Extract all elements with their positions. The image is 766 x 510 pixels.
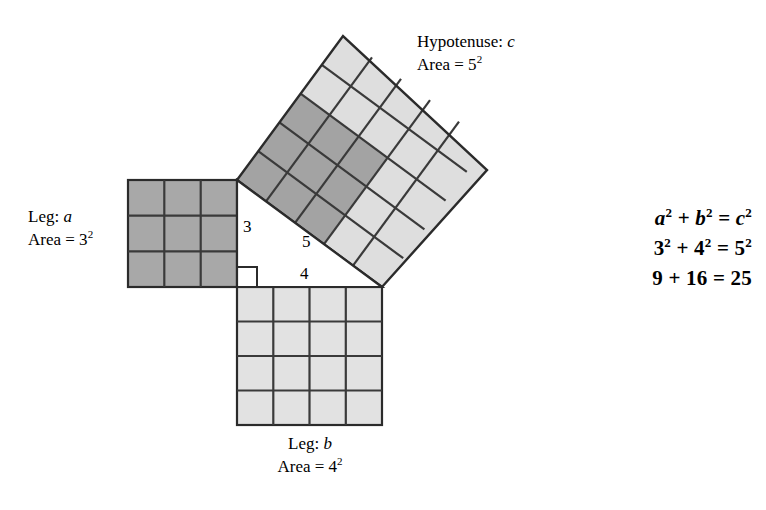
- equation-2-plus: +: [676, 236, 688, 260]
- leg-a-area-text: Area = 3: [28, 230, 88, 249]
- equation-row-2: 32 + 42 = 52: [566, 233, 752, 263]
- hypotenuse-label-line1: Hypotenuse: c: [417, 30, 515, 53]
- equation-3-term-b: 16: [686, 266, 707, 290]
- equation-3-term-a: 9: [652, 266, 663, 290]
- equation-1-term-b: b: [695, 206, 706, 230]
- leg-a-label: Leg: a Area = 32: [28, 205, 93, 251]
- equation-row-1: a2 + b2 = c2: [566, 203, 752, 233]
- leg-a-label-var: a: [63, 207, 72, 226]
- leg-a-area-line: Area = 32: [28, 228, 93, 251]
- hypotenuse-area-text: Area = 5: [417, 55, 477, 74]
- equation-2-term-c: 5: [735, 236, 746, 260]
- equation-3-plus: +: [668, 266, 680, 290]
- square-a-group: [128, 180, 237, 287]
- equation-2-term-a: 3: [654, 236, 665, 260]
- leg-a-area-exponent: 2: [88, 228, 94, 240]
- leg-b-label-text: Leg:: [288, 434, 319, 453]
- square-b-group: [237, 287, 382, 425]
- equation-3-term-c: 25: [731, 266, 752, 290]
- diagram-canvas: Hypotenuse: c Area = 52 Leg: a Area = 32…: [0, 0, 766, 510]
- side-length-c: 5: [302, 232, 311, 252]
- leg-b-label-line1: Leg: b: [230, 432, 390, 455]
- hypotenuse-area-exponent: 2: [477, 53, 483, 65]
- equation-1-plus: +: [678, 206, 690, 230]
- side-length-b: 4: [300, 264, 309, 284]
- equation-3-equals: =: [713, 266, 725, 290]
- side-length-a: 3: [243, 217, 252, 237]
- equation-block: a2 + b2 = c2 32 + 42 = 52 9 + 16 = 25: [566, 203, 752, 293]
- leg-a-label-text: Leg:: [28, 207, 59, 226]
- equation-2-exp-a: 2: [664, 235, 671, 250]
- equation-1-term-a: a: [655, 206, 666, 230]
- equation-2-term-b: 4: [694, 236, 705, 260]
- leg-b-area-line: Area = 42: [230, 455, 390, 478]
- equation-1-term-c: c: [736, 206, 746, 230]
- equation-2-exp-b: 2: [705, 235, 712, 250]
- equation-1-exp-a: 2: [666, 205, 673, 220]
- leg-b-area-text: Area = 4: [277, 457, 337, 476]
- square-a-fill: [128, 180, 237, 287]
- equation-row-3: 9 + 16 = 25: [566, 263, 752, 293]
- equation-1-exp-b: 2: [706, 205, 713, 220]
- hypotenuse-label-var: c: [507, 32, 515, 51]
- hypotenuse-area-line: Area = 52: [417, 53, 515, 76]
- equation-2-equals: =: [717, 236, 729, 260]
- equation-1-equals: =: [718, 206, 730, 230]
- equation-1-exp-c: 2: [745, 205, 752, 220]
- leg-a-label-line1: Leg: a: [28, 205, 93, 228]
- leg-b-label: Leg: b Area = 42: [230, 432, 390, 478]
- hypotenuse-label: Hypotenuse: c Area = 52: [417, 30, 515, 76]
- hypotenuse-label-text: Hypotenuse:: [417, 32, 503, 51]
- leg-b-label-var: b: [323, 434, 332, 453]
- leg-b-area-exponent: 2: [337, 455, 343, 467]
- equation-2-exp-c: 2: [745, 235, 752, 250]
